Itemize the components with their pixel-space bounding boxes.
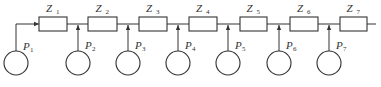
generator-circle-icon — [267, 51, 291, 75]
source-p2: P2 — [66, 25, 96, 75]
impedance-label: Z — [346, 2, 353, 14]
impedance-box — [290, 17, 318, 31]
impedance-subscript: 3 — [156, 8, 160, 16]
impedance-box — [88, 17, 117, 31]
impedance-subscript: 1 — [56, 8, 60, 16]
impedance-z3: Z3 — [139, 2, 167, 31]
impedance-z7: Z7 — [340, 2, 367, 31]
generator-circle-icon — [166, 51, 190, 75]
source-label: P — [22, 40, 30, 52]
impedance-box — [340, 17, 367, 31]
source-p3: P3 — [116, 25, 146, 75]
impedance-z5: Z5 — [240, 2, 267, 31]
source-subscript: 3 — [142, 45, 146, 53]
impedance-box — [139, 17, 167, 31]
source-subscript: 7 — [343, 45, 347, 53]
feeder-diagram: Z1Z2Z3Z4Z5Z6Z7 P1P2P3P4P5P6P7 — [0, 0, 381, 87]
impedance-subscript: 5 — [257, 8, 261, 16]
generator-circle-icon — [4, 51, 28, 75]
source-label: P — [234, 39, 242, 51]
source-label: P — [134, 39, 142, 51]
impedance-subscript: 2 — [106, 8, 110, 16]
source-subscript: 2 — [92, 45, 96, 53]
source-p6: P6 — [267, 25, 297, 75]
generator-circle-icon — [116, 51, 140, 75]
source-label: P — [184, 39, 192, 51]
source-subscript: 5 — [242, 45, 246, 53]
impedance-box — [189, 17, 217, 31]
source-p5: P5 — [216, 25, 246, 75]
generator-circle-icon — [66, 51, 90, 75]
source-label: P — [285, 39, 293, 51]
source-subscript: 1 — [30, 46, 34, 54]
source-label: P — [84, 39, 92, 51]
impedance-z2: Z2 — [88, 2, 117, 31]
impedance-subscript: 4 — [206, 8, 210, 16]
source-subscript: 4 — [192, 45, 196, 53]
impedance-label: Z — [196, 2, 203, 14]
impedance-label: Z — [297, 2, 304, 14]
impedance-label: Z — [46, 2, 53, 14]
impedance-label: Z — [146, 2, 153, 14]
impedance-label: Z — [246, 2, 253, 14]
impedance-box — [39, 17, 67, 31]
source-p4: P4 — [166, 25, 196, 75]
source-p7: P7 — [317, 25, 347, 75]
source-subscript: 6 — [293, 45, 297, 53]
impedance-box — [240, 17, 267, 31]
source-p1: P1 — [4, 40, 34, 75]
impedance-label: Z — [95, 2, 102, 14]
generator-circle-icon — [317, 51, 341, 75]
source-label: P — [335, 39, 343, 51]
impedance-subscript: 7 — [357, 8, 361, 16]
impedance-z6: Z6 — [290, 2, 318, 31]
impedance-z4: Z4 — [189, 2, 217, 31]
generator-circle-icon — [216, 51, 240, 75]
impedance-z1: Z1 — [39, 2, 67, 31]
impedance-subscript: 6 — [307, 8, 311, 16]
